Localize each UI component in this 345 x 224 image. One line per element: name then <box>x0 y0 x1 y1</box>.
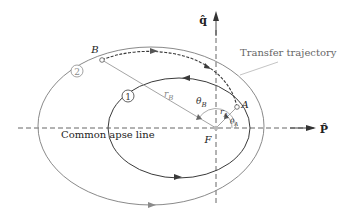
transfer-direction-arrow-icon <box>204 63 211 69</box>
point-B-label: B <box>90 44 98 55</box>
q-axis-arrowhead-icon <box>213 11 219 21</box>
transfer-trajectory-label: Transfer trajectory <box>240 47 337 58</box>
theta-A-label: θA <box>230 118 238 127</box>
theta-B-label: θB <box>196 96 207 109</box>
p-axis-label: P̂ <box>320 123 328 136</box>
orbit-transfer-diagram: 2 1 q̂ P̂ Transfer trajectory Common aps… <box>0 0 345 224</box>
orbit-1-direction-arrow-icon-bottom <box>174 174 182 180</box>
r-A-label: rA <box>220 107 229 118</box>
p-axis-arrowhead-icon <box>306 125 316 131</box>
orbit-2-direction-arrow-icon <box>148 202 156 208</box>
point-A-marker <box>235 105 240 110</box>
point-A-label: A <box>240 99 248 110</box>
orbit-1-marker-label: 1 <box>125 92 131 102</box>
focus-marker <box>214 126 218 130</box>
orbit-2-marker-label: 2 <box>74 67 80 77</box>
point-B-marker <box>100 58 105 63</box>
r-B-label: rB <box>164 89 173 102</box>
focus-label: F <box>204 134 213 145</box>
orbit-1-direction-arrow-icon-top <box>182 75 190 81</box>
transfer-label-leader <box>240 62 278 75</box>
transfer-direction-arrow-icon-top <box>150 48 158 54</box>
common-apse-line-label: Common apse line <box>61 129 155 140</box>
q-axis-label: q̂ <box>199 14 207 27</box>
